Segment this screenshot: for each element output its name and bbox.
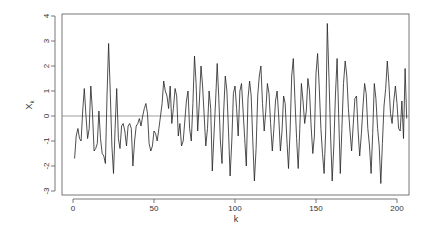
- y-tick-label: -3: [42, 187, 51, 195]
- x-tick-label: 100: [228, 204, 242, 213]
- x-tick-label: 150: [309, 204, 323, 213]
- y-tick-label: -2: [42, 162, 51, 170]
- x-axis-label: k: [234, 214, 239, 224]
- line-chart: -3-2-101234 050100150200 k Xk: [0, 0, 431, 234]
- x-axis: 050100150200: [71, 199, 404, 213]
- x-tick-label: 0: [71, 204, 76, 213]
- y-tick-label: 1: [42, 88, 51, 93]
- x-tick-label: 200: [390, 204, 404, 213]
- y-tick-label: 0: [42, 113, 51, 118]
- x-tick-label: 50: [150, 204, 159, 213]
- y-axis: -3-2-101234: [42, 13, 55, 194]
- y-axis-label: Xk: [24, 99, 35, 109]
- y-tick-label: 3: [42, 38, 51, 43]
- y-tick-label: 2: [42, 63, 51, 68]
- y-tick-label: 4: [42, 13, 51, 18]
- series-line: [75, 24, 407, 184]
- y-tick-label: -1: [42, 137, 51, 145]
